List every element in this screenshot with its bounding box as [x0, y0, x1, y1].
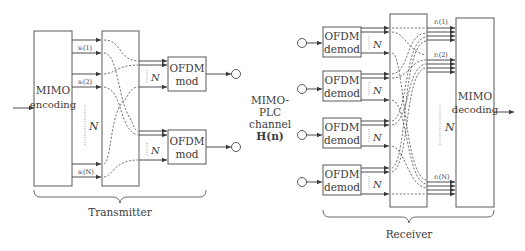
svg-text:demod: demod — [324, 134, 360, 146]
transmitter-brace — [34, 190, 206, 203]
svg-text:H(n): H(n) — [256, 130, 284, 142]
svg-text:decoding: decoding — [452, 104, 499, 115]
mimo-encoding-label-1: MIMO — [36, 84, 71, 96]
tx-port-1-icon — [232, 70, 241, 79]
demod-output-lines — [361, 28, 389, 194]
ofdm-mod-2-n-label: N — [150, 145, 161, 156]
signal-rN-label: rₗ(N) — [434, 173, 450, 181]
mimo-decoding-block: MIMO decoding — [452, 18, 499, 207]
signal-sN-label: sₗ(N) — [78, 168, 94, 176]
svg-text:OFDM: OFDM — [324, 30, 359, 42]
ofdm-demod-block-2: OFDM demod — [298, 71, 362, 101]
svg-text:OFDM: OFDM — [324, 121, 359, 133]
ofdm-demod-block-1: OFDM demod — [298, 27, 362, 57]
svg-text:demod: demod — [324, 87, 360, 99]
svg-text:N: N — [372, 39, 383, 50]
ofdm-mod-block-1: OFDM mod — [168, 57, 206, 91]
signal-s2-label: sₗ(2) — [78, 78, 93, 86]
mimo-encoding-block: MIMO encoding — [30, 31, 77, 186]
svg-text:channel: channel — [249, 118, 292, 130]
n-label: N — [88, 120, 99, 133]
svg-text:PLC: PLC — [259, 106, 281, 118]
channel-label: MIMO- PLC channel H(n) — [249, 94, 292, 142]
encoder-output-lines — [72, 40, 101, 177]
svg-text:OFDM: OFDM — [324, 74, 359, 86]
rx-n-label: N — [444, 121, 455, 134]
svg-text:N: N — [372, 132, 383, 143]
receiver-brace — [323, 210, 494, 223]
svg-text:OFDM: OFDM — [169, 62, 204, 74]
signal-r1-label: rₗ(1) — [434, 18, 448, 26]
svg-text:MIMO-: MIMO- — [251, 94, 290, 106]
ofdm-demod-block-4: OFDM demod — [298, 165, 362, 195]
signal-s1-label: sₗ(1) — [78, 44, 93, 52]
svg-text:mod: mod — [176, 75, 199, 87]
svg-text:N: N — [372, 179, 383, 190]
signal-r2-label: rₗ(2) — [434, 51, 448, 59]
mimo-encoding-label-2: encoding — [30, 99, 77, 110]
svg-text:demod: demod — [324, 181, 360, 193]
receiver: OFDM demod OFDM demod OFDM demod OFDM de… — [298, 14, 515, 240]
ofdm-mod-block-2: OFDM mod — [168, 130, 206, 164]
receiver-label: Receiver — [386, 228, 434, 240]
svg-text:demod: demod — [324, 43, 360, 55]
svg-text:mod: mod — [176, 148, 199, 160]
svg-text:OFDM: OFDM — [169, 135, 204, 147]
tx-port-2-icon — [232, 143, 241, 152]
svg-text:MIMO: MIMO — [458, 90, 493, 102]
ofdm-demod-block-3: OFDM demod — [298, 118, 362, 148]
transmitter-label: Transmitter — [88, 206, 152, 218]
mimo-plc-system-diagram: MIMO encoding sₗ(1) sₗ(2) sₗ(N) N — [0, 0, 525, 251]
transmitter: MIMO encoding sₗ(1) sₗ(2) sₗ(N) N — [13, 31, 241, 218]
ofdm-mod-1-n-label: N — [150, 72, 161, 83]
svg-text:OFDM: OFDM — [324, 168, 359, 180]
svg-text:N: N — [372, 85, 383, 96]
